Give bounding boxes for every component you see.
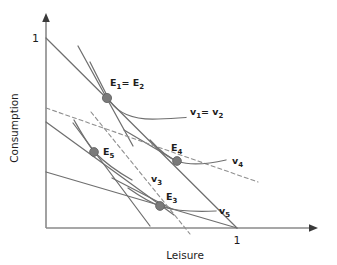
budget-lines-group [46,38,258,234]
x-axis-tick-one: 1 [234,234,241,247]
label-v4: v4 [232,155,243,169]
y-axis-arrowhead [42,13,50,22]
y-axis-tick-one: 1 [32,32,39,45]
label-v5: v5 [219,205,230,219]
x-axis-arrowhead [309,224,318,232]
point-e1-e2 [102,93,111,102]
label-e5: E5 [103,146,115,160]
label-e1-e2: E1= E2 [110,77,144,91]
x-axis-title: Leisure [166,249,204,261]
curve-labels-group: v1= v2 v4 v3 v5 [151,106,243,219]
budget-line-dashed-2 [91,112,190,234]
curve-v1-v2 [90,62,186,119]
indifference-curves-group [74,62,226,211]
y-axis-title: Consumption [8,93,20,163]
axis-annotations-group: 1 1 Leisure Consumption [8,32,241,261]
economics-diagram: E1= E2 E5 E4 E3 v1= v2 v4 v3 v5 1 1 Leis… [0,0,337,265]
label-v3: v3 [151,173,162,187]
axes-group [42,13,318,232]
label-e4: E4 [171,142,183,156]
label-e3: E3 [166,191,178,205]
label-v1-v2: v1= v2 [190,106,224,120]
point-e4 [173,157,182,166]
point-e3 [156,202,165,211]
point-e5 [90,148,99,157]
